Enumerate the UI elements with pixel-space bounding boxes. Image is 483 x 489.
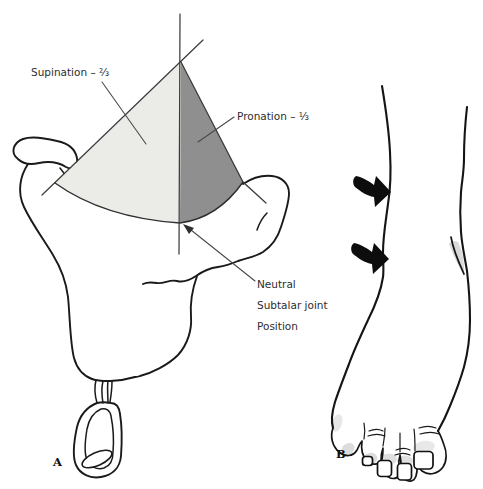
stirrup-strap-4 — [110, 381, 112, 402]
great-toe-crease-2 — [420, 433, 439, 435]
panel-b: B — [329, 86, 470, 481]
third-toe-crease-2 — [368, 435, 385, 437]
neutral-arrowhead-icon — [183, 224, 194, 234]
second-toenail — [398, 464, 412, 481]
third-toe-crease-1 — [369, 430, 383, 432]
great-toe-crease-1 — [419, 427, 436, 429]
forefoot-notch-line — [257, 213, 267, 230]
pronation-sector — [180, 62, 243, 223]
web-line-5-4 — [364, 423, 365, 439]
panel-a-label: A — [52, 455, 63, 469]
subtalar-motion-figure: Supination – ⅔ Pronation – ⅓ Neutral Sub… — [0, 0, 483, 489]
neutral-label-line2: Subtalar joint — [257, 299, 328, 311]
stirrup-strap-1 — [95, 380, 97, 403]
heel-bottom-edge — [92, 377, 135, 381]
neutral-label-line1: Neutral — [257, 278, 296, 290]
foot-shading — [329, 241, 464, 467]
fibular-tubercle-outline — [13, 138, 77, 169]
panel-a: Supination – ⅔ Pronation – ⅓ Neutral Sub… — [13, 14, 327, 477]
heel-right-contour — [135, 276, 197, 377]
figure-svg: Supination – ⅔ Pronation – ⅓ Neutral Sub… — [0, 0, 483, 489]
supination-sector — [55, 62, 181, 223]
great-toenail — [414, 452, 433, 470]
pronation-label: Pronation – ⅓ — [237, 110, 309, 122]
motion-fan — [42, 14, 266, 254]
third-toenail — [378, 461, 392, 477]
supination-label: Supination – ⅔ — [31, 66, 109, 78]
second-toe-crease-2 — [395, 454, 410, 456]
dorsal-foot-illustration — [332, 86, 470, 481]
curved-arrow-icon-upper — [353, 176, 391, 207]
panel-b-label: B — [336, 447, 346, 461]
fourth-toenail — [363, 457, 373, 466]
neutral-label-line3: Position — [257, 320, 298, 332]
lateral-leg-and-border — [438, 107, 470, 431]
calcaneus-stirrup — [74, 380, 122, 477]
stirrup-strap-2 — [102, 381, 103, 403]
second-toe-crease-1 — [396, 449, 410, 451]
